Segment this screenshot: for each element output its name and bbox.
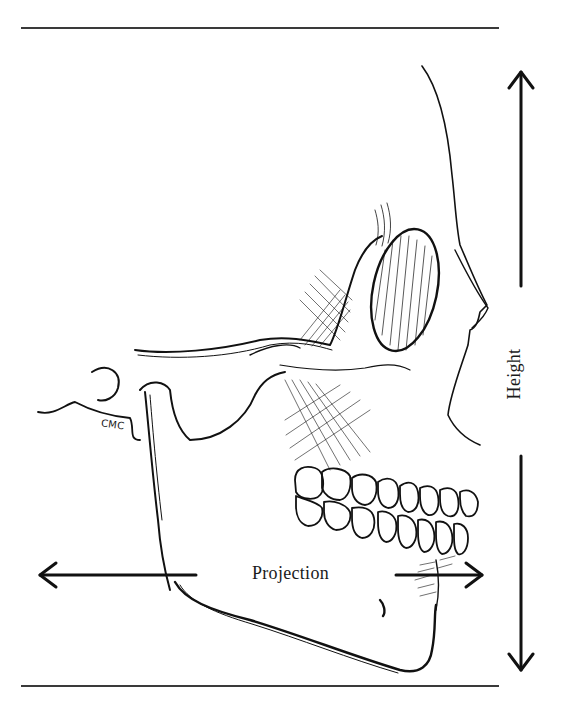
external-ear-region: [92, 368, 119, 401]
zygomatic-arch: [135, 236, 382, 352]
bottom-rule: [21, 685, 499, 687]
frontal-bone-outline: [422, 66, 487, 445]
projection-label: Projection: [252, 563, 329, 584]
height-label: Height: [504, 349, 525, 400]
mandible-lower-border: [175, 582, 436, 671]
mandible-ramus: [140, 372, 285, 440]
skull-illustration: [0, 0, 570, 721]
orbit: [361, 223, 449, 358]
mental-foramen: [380, 600, 384, 616]
